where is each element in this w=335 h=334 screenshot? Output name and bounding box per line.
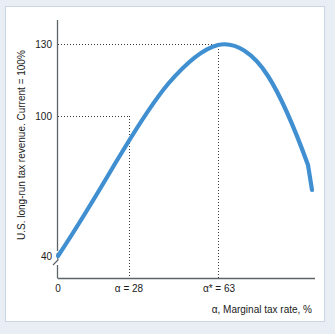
laffer-curve-figure: 130 100 40 0 α = 28 α* = 63 U.S. long-ru… bbox=[0, 0, 335, 334]
y-tick-label-100: 100 bbox=[35, 111, 52, 122]
x-tick-label-alpha-28: α = 28 bbox=[115, 283, 144, 294]
chart-screenshot: 130 100 40 0 α = 28 α* = 63 U.S. long-ru… bbox=[0, 0, 335, 334]
y-tick-label-130: 130 bbox=[35, 39, 52, 50]
x-tick-label-alpha-star-63: α* = 63 bbox=[203, 283, 236, 294]
x-tick-label-0: 0 bbox=[55, 283, 61, 294]
laffer-curve-line bbox=[58, 44, 312, 256]
x-axis-title: α, Marginal tax rate, % bbox=[212, 304, 312, 315]
y-axis-title: U.S. long-run tax revenue. Current = 100… bbox=[16, 50, 27, 240]
y-tick-label-40: 40 bbox=[41, 251, 53, 262]
